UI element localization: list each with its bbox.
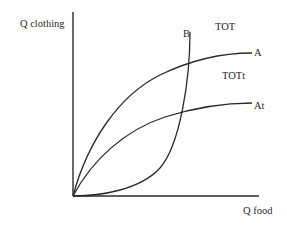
curve-at <box>73 103 252 196</box>
tott-label: TOTt <box>222 70 245 81</box>
tot-label: TOT <box>215 21 236 32</box>
curve-a-label: A <box>254 47 262 58</box>
curve-at-label: At <box>254 100 265 111</box>
curve-b <box>73 32 190 196</box>
curve-b-label: B <box>183 28 190 39</box>
offer-curve-diagram: Q clothing Q food B TOT A TOTt At <box>0 0 287 228</box>
y-axis-label: Q clothing <box>20 18 65 29</box>
x-axis-label: Q food <box>243 205 273 216</box>
